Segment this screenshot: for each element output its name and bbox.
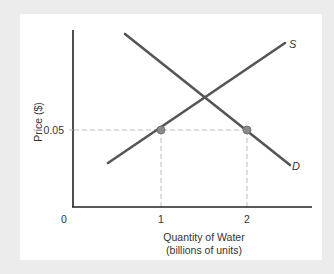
x-tick-label-0: 0 (61, 213, 67, 225)
point-supply-1 (157, 126, 165, 134)
demand-curve (125, 34, 290, 165)
y-axis-title: Price ($) (32, 102, 44, 142)
x-axis-title: Quantity of Water (163, 231, 245, 243)
y-tick-label: 0.05 (44, 124, 65, 136)
supply-label: S (289, 38, 297, 50)
supply-demand-chart: S D 0.05 0 1 2 Price ($) Quantity of Wat… (0, 0, 334, 274)
supply-curve (108, 43, 285, 163)
demand-label: D (292, 160, 300, 172)
x-tick-label-1: 1 (158, 213, 164, 225)
reference-lines (74, 130, 247, 207)
x-axis-subtitle: (billions of units) (166, 244, 242, 256)
x-tick-label-2: 2 (244, 213, 250, 225)
point-demand-2 (243, 126, 251, 134)
axes (72, 30, 312, 207)
